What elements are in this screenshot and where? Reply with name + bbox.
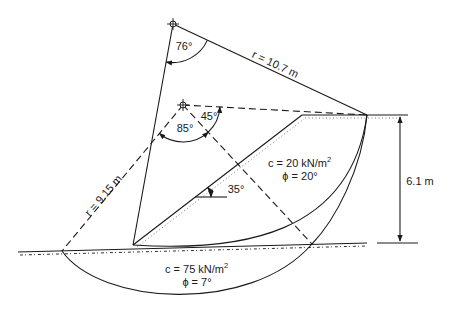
upper-slip-arc [133, 115, 367, 246]
upper-cohesion-text: c = 20 kN/m [268, 157, 327, 169]
lower-cohesion-unit-sup: 2 [224, 261, 228, 270]
lower-layer-friction: ϕ = 7° [182, 276, 211, 288]
upper-layer-cohesion: c = 20 kN/m2 [268, 155, 331, 169]
lower-layer-cohesion: c = 75 kN/m2 [165, 261, 228, 275]
upper-cohesion-unit-sup: 2 [327, 155, 331, 164]
lower-cohesion-text: c = 75 kN/m [165, 263, 224, 275]
slope-stipple [137, 119, 304, 247]
lower-radius-label: r = 9.15 m [82, 173, 124, 218]
upper-layer-friction: ϕ = 20° [282, 170, 317, 182]
slope-height-label: 6.1 m [406, 175, 434, 187]
upper-centre-marker-icon [167, 18, 179, 30]
lower-angle-label-85: 85° [177, 122, 194, 134]
upper-angle-label: 76° [176, 40, 193, 52]
slope-angle-label: 35° [228, 183, 245, 195]
slope-stability-diagram: 76° r = 10.7 m 45° 85° r = 9.15 m c = 20… [0, 0, 449, 311]
upper-radius-to-crest [173, 24, 367, 115]
lower-angle-label-45: 45° [201, 110, 218, 122]
diagram-canvas: 76° r = 10.7 m 45° 85° r = 9.15 m c = 20… [0, 0, 449, 311]
angle-arc-35 [208, 187, 211, 197]
lower-radius-left [62, 105, 183, 251]
upper-radius-to-toe [133, 24, 173, 245]
